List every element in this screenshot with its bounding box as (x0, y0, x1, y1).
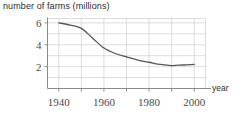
x-tick-label: 1980 (138, 96, 161, 108)
x-tick-label: 2000 (183, 96, 206, 108)
y-tick-label: 4 (36, 39, 42, 51)
chart-figure: number of farms (millions) 246 194019601… (0, 0, 238, 119)
y-axis-tick-labels: 246 (36, 17, 42, 73)
x-tick-label: 1960 (93, 96, 116, 108)
x-axis-label: year (212, 83, 229, 93)
line-chart-plot: 246 1940196019802000 year (0, 0, 238, 119)
x-tick-label: 1940 (48, 96, 71, 108)
y-tick-label: 2 (36, 61, 42, 73)
vertical-gridlines (59, 19, 194, 89)
y-tick-label: 6 (36, 17, 42, 29)
x-axis-tick-labels: 1940196019802000 (48, 96, 206, 108)
